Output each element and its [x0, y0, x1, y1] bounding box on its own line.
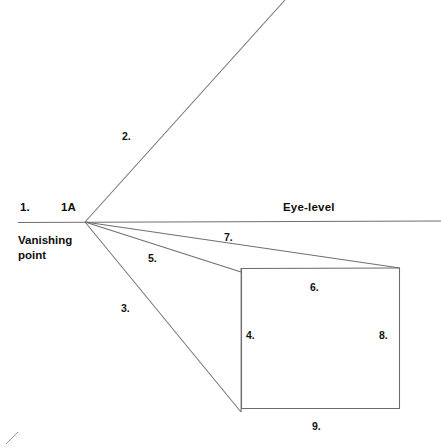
corner-artifact-mark — [6, 432, 18, 444]
callout-7: 7. — [224, 231, 233, 244]
callout-5: 5. — [148, 252, 157, 265]
vanishing-point-label-line2: point — [18, 248, 72, 263]
perspective-drawing-canvas: 1. 1A Eye-level Vanishing point 2. 3. 4.… — [0, 0, 441, 448]
label-horizon-1: 1. — [20, 200, 30, 214]
label-horizon-1a: 1A — [61, 200, 76, 214]
vanishing-point-label: Vanishing point — [18, 233, 72, 262]
ray-line-7 — [85, 222, 400, 268]
callout-2: 2. — [122, 130, 131, 143]
callout-6: 6. — [310, 281, 319, 294]
ray-line-3 — [85, 222, 241, 412]
horizon-line — [18, 221, 441, 223]
callout-3: 3. — [121, 302, 130, 315]
vanishing-point-label-line1: Vanishing — [18, 233, 72, 248]
callout-4: 4. — [246, 329, 255, 342]
ray-line-5 — [85, 222, 241, 272]
callout-8: 8. — [379, 329, 388, 342]
ray-line-2 — [85, 0, 285, 222]
callout-9: 9. — [312, 420, 321, 433]
perspective-diagram — [0, 0, 441, 448]
eye-level-label: Eye-level — [283, 200, 335, 214]
box-edge-front-top — [241, 268, 400, 269]
